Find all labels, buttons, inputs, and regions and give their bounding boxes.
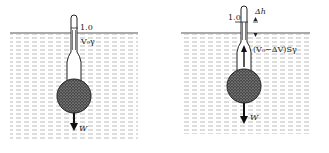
right-panel: 1.0 Δh (V₀−ΔV)Sγ W xyxy=(181,6,310,134)
scale-mark-label: 1.0 xyxy=(228,13,241,22)
hydrometer-bulb xyxy=(57,79,91,113)
buoyancy-label: V₀γ xyxy=(80,37,95,46)
weight-label: W xyxy=(79,124,88,133)
hydrometer-bulb xyxy=(227,69,261,103)
scale-mark-label: 1.0 xyxy=(80,23,93,32)
delta-h-label: Δh xyxy=(254,7,266,16)
left-panel: 1.0 V₀γ W xyxy=(10,15,138,140)
buoyancy-label: (V₀−ΔV)Sγ xyxy=(253,45,297,54)
weight-label: W xyxy=(250,113,259,122)
hydrometer-diagram: 1.0 V₀γ W 1.0 Δh (V₀−ΔV)Sγ W xyxy=(0,0,329,153)
